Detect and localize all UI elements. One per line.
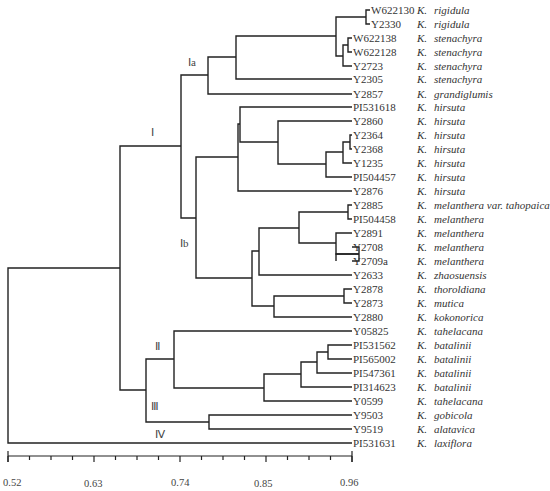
leaf-genus: K. [416, 269, 427, 281]
leaf-accession: Y2330 [371, 18, 401, 30]
leaf-genus: K. [416, 283, 427, 295]
leaf-genus: K. [416, 4, 427, 16]
leaf-genus: K. [416, 437, 427, 449]
leaf-genus: K. [416, 88, 427, 100]
leaf-genus: K. [416, 311, 427, 323]
dendrogram: Ⅰa Ⅰ Ⅰb Ⅱ Ⅲ Ⅳ W622130K.rigidulaY2330K.ri… [0, 0, 550, 491]
leaf-species: stenachyra [434, 73, 483, 85]
leaf-accession: W622130 [371, 4, 415, 16]
clade-label-I: Ⅰ [151, 126, 154, 138]
leaf-accession: PI531562 [353, 339, 396, 351]
leaf-species: hirsuta [434, 185, 466, 197]
leaf-accession: Y2364 [353, 129, 383, 141]
leaf-accession: Y2708 [353, 241, 383, 253]
leaf-genus: K. [416, 339, 427, 351]
clade-label-III: Ⅲ [151, 400, 159, 412]
leaf-accession: Y9503 [353, 409, 383, 421]
leaf-accession: Y9519 [353, 423, 383, 435]
leaf-genus: K. [416, 227, 427, 239]
leaf-genus: K. [416, 115, 427, 127]
leaf-species: thoroldiana [434, 283, 486, 295]
leaf-species: gobicola [434, 409, 473, 421]
leaf-accession: W622128 [353, 46, 397, 58]
leaf-genus: K. [416, 423, 427, 435]
clade-label-IV: Ⅳ [155, 428, 166, 440]
leaf-species: kokonorica [434, 311, 484, 323]
leaf-species: melanthera [434, 241, 485, 253]
tick-label-0: 0.52 [3, 477, 21, 488]
leaf-accession: Y2857 [353, 88, 383, 100]
leaf-genus: K. [416, 46, 427, 58]
leaf-accession: W622138 [353, 32, 397, 44]
leaf-genus: K. [416, 381, 427, 393]
leaf-species: tahelacana [434, 325, 483, 337]
leaf-species: hirsuta [434, 171, 466, 183]
leaf-genus: K. [416, 157, 427, 169]
tick-label-2: 0.74 [171, 477, 190, 488]
leaf-genus: K. [416, 18, 427, 30]
similarity-axis: 0.52 0.63 0.74 0.85 0.96 [3, 451, 358, 489]
leaf-genus: K. [416, 199, 427, 211]
leaf-genus: K. [416, 32, 427, 44]
clade-label-Ib: Ⅰb [180, 237, 189, 249]
leaf-accession: Y2633 [353, 269, 383, 281]
leaf-genus: K. [416, 395, 427, 407]
leaf-species: batalinii [434, 381, 471, 393]
leaf-accession: PI531631 [353, 437, 396, 449]
leaf-accession: Y2723 [353, 60, 383, 72]
leaf-species: hirsuta [434, 143, 466, 155]
leaf-species: batalinii [434, 367, 471, 379]
leaf-accession: Y2368 [353, 143, 383, 155]
leaf-accession: Y2305 [353, 73, 383, 85]
leaf-species: melanthera [434, 227, 485, 239]
tick-label-4: 0.96 [340, 477, 358, 488]
leaf-species: melanthera [434, 255, 485, 267]
leaf-accession: Y2880 [353, 311, 383, 323]
tick-label-1: 0.63 [84, 478, 102, 489]
leaf-genus: K. [416, 353, 427, 365]
leaf-genus: K. [416, 367, 427, 379]
leaf-genus: K. [416, 409, 427, 421]
leaf-accession: Y2860 [353, 115, 383, 127]
tree-branches [8, 10, 370, 443]
leaf-genus: K. [416, 101, 427, 113]
leaf-species: laxiflora [434, 437, 472, 449]
leaf-species: mutica [434, 297, 464, 309]
leaf-genus: K. [416, 213, 427, 225]
leaf-accession: PI504457 [353, 171, 396, 183]
leaf-accession: Y2878 [353, 283, 383, 295]
leaf-accession: PI314623 [353, 381, 396, 393]
leaf-species: hirsuta [434, 115, 466, 127]
leaf-species: grandiglumis [434, 88, 493, 100]
leaf-genus: K. [416, 60, 427, 72]
leaf-accession: Y05825 [353, 325, 389, 337]
leaf-accession: Y2876 [353, 185, 383, 197]
leaf-species: melanthera var. tahopaica [434, 199, 550, 211]
leaf-accession: Y2885 [353, 199, 383, 211]
leaf-species: alatavica [434, 423, 475, 435]
clade-label-Ia: Ⅰa [188, 56, 196, 68]
leaf-genus: K. [416, 325, 427, 337]
leaf-accession: Y2891 [353, 227, 383, 239]
leaf-accession: Y2873 [353, 297, 383, 309]
leaf-genus: K. [416, 73, 427, 85]
leaf-accession: Y1235 [353, 157, 383, 169]
leaf-genus: K. [416, 129, 427, 141]
leaf-genus: K. [416, 297, 427, 309]
leaf-species: hirsuta [434, 129, 466, 141]
leaf-species: batalinii [434, 353, 471, 365]
leaf-accession: PI547361 [353, 367, 396, 379]
leaf-species: batalinii [434, 339, 471, 351]
leaf-accession: Y0599 [353, 395, 383, 407]
leaf-accession: Y2709a [353, 255, 388, 267]
leaf-accession: PI565002 [353, 353, 396, 365]
leaf-species: tahelacana [434, 395, 483, 407]
leaf-genus: K. [416, 143, 427, 155]
leaf-species: stenachyra [434, 46, 483, 58]
leaf-accession: PI504458 [353, 213, 396, 225]
leaf-species: rigidula [434, 18, 470, 30]
leaf-genus: K. [416, 255, 427, 267]
leaf-species: stenachyra [434, 60, 483, 72]
leaf-genus: K. [416, 241, 427, 253]
leaf-species: stenachyra [434, 32, 483, 44]
